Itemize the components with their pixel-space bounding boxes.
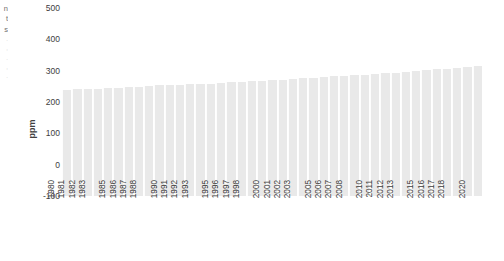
x-axis-tick-label: 2020 <box>458 178 467 220</box>
y-axis-tick-label: 400 <box>24 34 60 44</box>
x-axis-tick-label: 1996 <box>211 178 220 220</box>
x-axis-tick-label: 2006 <box>314 178 323 220</box>
clipped-edge-line-3: s <box>0 25 8 35</box>
clipped-edge-text: n t s . , . , . <box>0 4 8 81</box>
y-axis-tick-label: 100 <box>24 128 60 138</box>
clipped-edge-line-6: . <box>0 54 8 63</box>
y-axis-tick-label: 300 <box>24 66 60 76</box>
x-axis-tick-label: 2016 <box>417 178 426 220</box>
x-axis-tick-label: 1981 <box>57 178 66 220</box>
x-axis-tick: 2020 <box>473 198 483 244</box>
plot-area <box>62 8 483 196</box>
bar <box>452 68 462 196</box>
x-axis-tick-label: 2005 <box>304 178 313 220</box>
bar <box>473 66 483 196</box>
x-axis-tick-label: 2017 <box>427 178 436 220</box>
bar-series <box>62 8 483 196</box>
y-axis-tick-label: 200 <box>24 97 60 107</box>
x-axis-tick-label: 1991 <box>160 178 169 220</box>
x-axis-tick-label: 2000 <box>252 178 261 220</box>
x-axis-tick-label: 1997 <box>222 178 231 220</box>
x-axis-tick-label: 1988 <box>129 178 138 220</box>
x-axis-tick-label: 1986 <box>109 178 118 220</box>
clipped-edge-line-4: . <box>0 35 8 44</box>
x-axis-tick-label: 1995 <box>201 178 210 220</box>
clipped-edge-line-5: , <box>0 44 8 53</box>
x-axis-tick-label: 2018 <box>437 178 446 220</box>
x-axis-tick-label: 2012 <box>376 178 385 220</box>
y-axis-tick-label: 0 <box>24 160 60 170</box>
x-axis-tick-label: 2013 <box>386 178 395 220</box>
x-axis-tick-label: 1992 <box>170 178 179 220</box>
x-axis-tick-label: 2003 <box>283 178 292 220</box>
x-axis-tick-label: 2010 <box>355 178 364 220</box>
co2-ppm-bar-chart: n t s . , . , . ppm 5004003002001000-100… <box>0 0 504 261</box>
y-axis-tick-labels: 5004003002001000-100 <box>24 0 60 261</box>
x-axis-tick-label: 1990 <box>150 178 159 220</box>
x-axis-tick-label: 2002 <box>273 178 282 220</box>
x-axis-tick-label: 1985 <box>98 178 107 220</box>
x-axis-tick-label: 2011 <box>365 178 374 220</box>
x-axis-tick-label: 2001 <box>263 178 272 220</box>
y-axis-tick-label: 500 <box>24 3 60 13</box>
bar <box>462 67 472 196</box>
bar <box>432 69 442 196</box>
x-axis-tick-label: 2007 <box>324 178 333 220</box>
clipped-edge-line-8: . <box>0 72 8 81</box>
x-axis-tick-label: 1982 <box>68 178 77 220</box>
clipped-edge-line-1: n <box>0 4 8 14</box>
bar <box>442 69 452 196</box>
x-axis-tick-label: 1993 <box>181 178 190 220</box>
x-axis-tick-label: 2008 <box>335 178 344 220</box>
x-axis-tick-label: 1980 <box>47 178 56 220</box>
x-axis-tick-label: 1983 <box>78 178 87 220</box>
x-axis-tick-label: 1998 <box>232 178 241 220</box>
clipped-edge-line-2: t <box>0 14 8 24</box>
x-axis-tick-label: 2015 <box>406 178 415 220</box>
x-axis-tick-labels: 1980198119821983198519861987198819901991… <box>62 198 483 244</box>
x-axis-tick-label: 1987 <box>119 178 128 220</box>
clipped-edge-line-7: , <box>0 63 8 72</box>
